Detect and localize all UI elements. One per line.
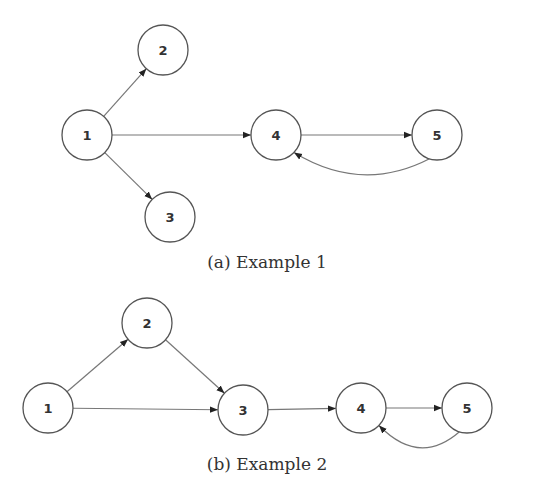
edge-3-to-4 — [268, 408, 336, 409]
edge-1-to-3 — [73, 408, 218, 409]
node-label: 1 — [43, 401, 52, 416]
graph-node-2: 2 — [122, 298, 172, 348]
caption-example-2: (b) Example 2 — [0, 454, 534, 474]
example-1-graph: 12345 — [62, 25, 462, 242]
node-label: 2 — [158, 43, 167, 58]
caption-example-1: (a) Example 1 — [0, 252, 534, 272]
graph-node-5: 5 — [412, 110, 462, 160]
edge-1-to-3 — [105, 153, 152, 200]
node-label: 4 — [356, 401, 365, 416]
node-label: 4 — [271, 128, 280, 143]
edge-1-to-2 — [104, 69, 147, 117]
node-label: 5 — [432, 128, 441, 143]
graph-node-3: 3 — [145, 192, 195, 242]
node-label: 3 — [238, 403, 247, 418]
graph-node-1: 1 — [23, 383, 73, 433]
edge-5-to-4 — [379, 426, 460, 448]
graph-node-1: 1 — [62, 110, 112, 160]
node-label: 5 — [462, 401, 471, 416]
graph-node-2: 2 — [138, 25, 188, 75]
graph-node-4: 4 — [251, 110, 301, 160]
node-label: 3 — [165, 210, 174, 225]
edge-2-to-3 — [166, 340, 225, 393]
graph-node-4: 4 — [336, 383, 386, 433]
example-2-graph: 12345 — [23, 298, 492, 448]
edge-1-to-2 — [67, 339, 128, 391]
graph-node-3: 3 — [218, 385, 268, 435]
node-label: 1 — [82, 128, 91, 143]
edge-5-to-4 — [294, 153, 430, 175]
node-label: 2 — [142, 316, 151, 331]
graph-node-5: 5 — [442, 383, 492, 433]
